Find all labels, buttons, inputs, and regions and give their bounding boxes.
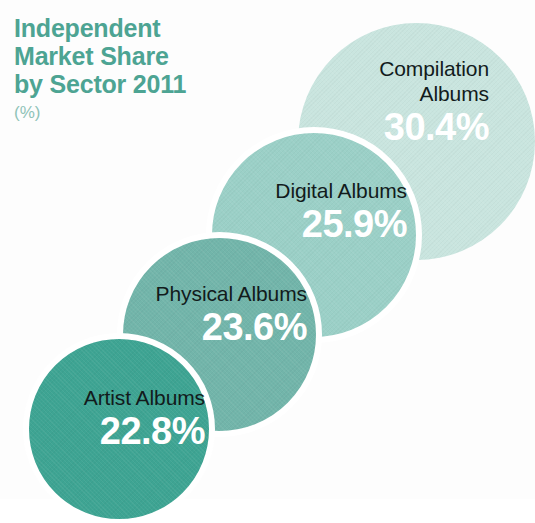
label-group-physical-albums: Physical Albums 23.6% bbox=[156, 281, 307, 348]
label-group-artist-albums: Artist Albums 22.8% bbox=[84, 385, 205, 452]
bubble-value-compilation-albums: 30.4% bbox=[379, 107, 489, 148]
page-title-line-2: Market Share bbox=[14, 42, 264, 70]
bubble-label-physical-albums: Physical Albums bbox=[156, 281, 307, 306]
bubble-label-artist-albums: Artist Albums bbox=[84, 385, 205, 410]
label-group-digital-albums: Digital Albums 25.9% bbox=[275, 178, 407, 245]
chart-title-block: Independent Market Share by Sector 2011 … bbox=[14, 14, 264, 125]
page-title-line-3: by Sector 2011 bbox=[14, 70, 264, 98]
bubble-label-compilation-albums-line2: Albums bbox=[379, 81, 489, 106]
bubble-value-physical-albums: 23.6% bbox=[156, 307, 307, 348]
bubble-value-artist-albums: 22.8% bbox=[84, 411, 205, 452]
bubble-label-compilation-albums-line1: Compilation bbox=[379, 56, 489, 81]
chart-unit-label: (%) bbox=[14, 101, 264, 125]
page-title-line-1: Independent bbox=[14, 14, 264, 42]
bubble-value-digital-albums: 25.9% bbox=[275, 204, 407, 245]
bubble-label-digital-albums: Digital Albums bbox=[275, 178, 407, 203]
label-group-compilation-albums: Compilation Albums 30.4% bbox=[379, 56, 489, 148]
